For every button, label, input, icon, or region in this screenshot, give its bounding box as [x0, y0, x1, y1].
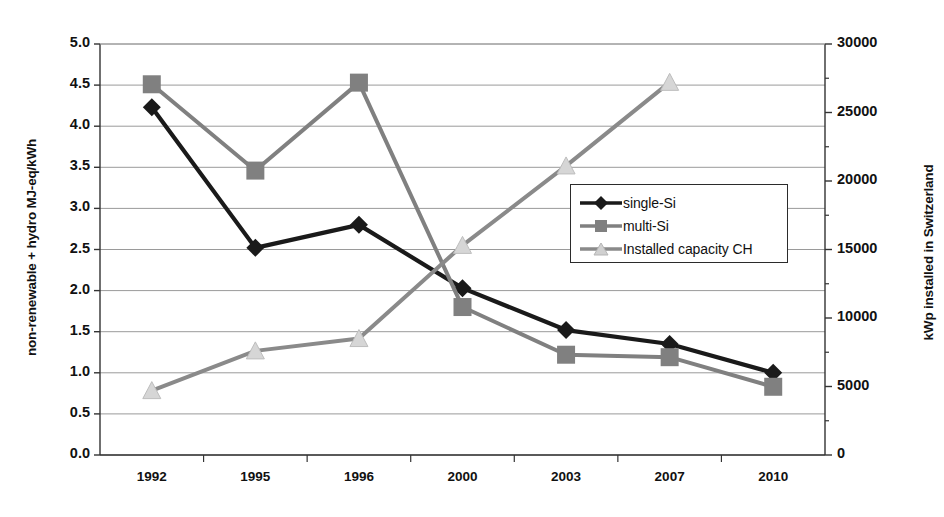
plot-area: [0, 0, 944, 517]
legend-item-multi-si: multi-Si: [579, 214, 779, 237]
legend-symbol-triangle-icon: [579, 240, 623, 258]
data-point-marker: [557, 321, 575, 339]
data-point-marker: [661, 348, 679, 366]
legend-item-single-si: single-Si: [579, 191, 779, 214]
data-point-marker: [661, 73, 679, 90]
data-point-marker: [143, 75, 161, 93]
data-point-marker: [350, 74, 368, 92]
legend-item-installed-capacity: Installed capacity CH: [579, 237, 779, 260]
data-point-marker: [557, 346, 575, 364]
chart-figure: non-renewable + hydro MJ-eq/kWh kWp inst…: [0, 0, 944, 517]
legend-symbol-square-icon: [579, 217, 623, 235]
data-point-marker: [246, 162, 264, 180]
data-point-marker: [454, 298, 472, 316]
legend-label-single-si: single-Si: [623, 195, 676, 211]
data-point-marker: [764, 378, 782, 396]
legend-label-installed-capacity: Installed capacity CH: [623, 241, 752, 257]
legend: single-Si multi-Si Installed capacity CH: [570, 184, 788, 263]
legend-label-multi-si: multi-Si: [623, 218, 669, 234]
legend-symbol-diamond-icon: [579, 194, 623, 212]
